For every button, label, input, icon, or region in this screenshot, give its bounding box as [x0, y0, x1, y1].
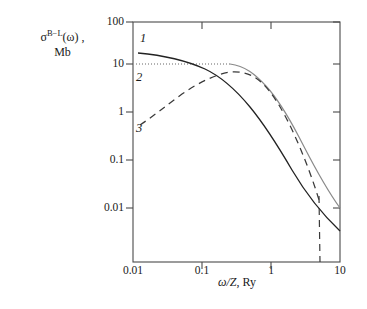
curve-3-vertical-drop [319, 196, 320, 262]
curve-3-line [140, 72, 319, 200]
curve-2-line [230, 64, 340, 208]
curve-1-line [138, 53, 340, 231]
axis-ticks [126, 22, 340, 269]
data-curves [136, 53, 340, 262]
plot-svg [0, 0, 367, 309]
figure-photoionization-cross-section: σB−L(ω) , Mb ω/Z, Ry 100 10 1 0.1 0.01 0… [0, 0, 367, 309]
plot-frame [133, 22, 340, 262]
